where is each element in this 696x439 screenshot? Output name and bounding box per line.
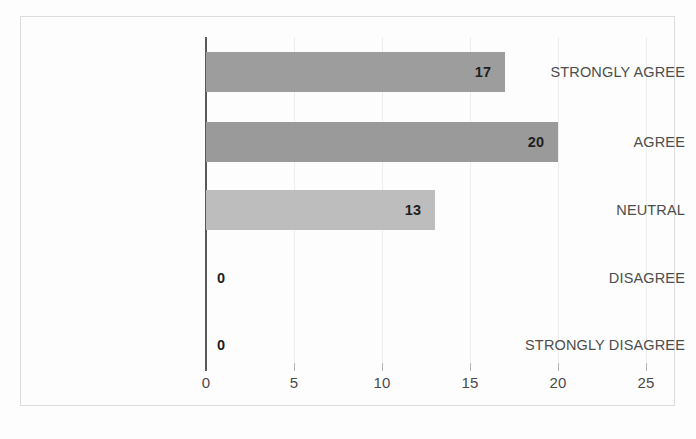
- bar-value-disagree: 0: [217, 270, 225, 286]
- tick-label-5: 5: [264, 374, 324, 391]
- tick-mark-15: [470, 363, 471, 371]
- category-label-strongly-disagree: STRONGLY DISAGREE: [500, 337, 696, 353]
- category-label-neutral: NEUTRAL: [500, 202, 696, 218]
- tick-mark-25: [646, 363, 647, 371]
- gridline-20: [558, 37, 559, 362]
- tick-label-10: 10: [352, 374, 412, 391]
- tick-label-15: 15: [440, 374, 500, 391]
- bar-value-neutral: 13: [405, 202, 421, 218]
- bar-neutral: 13: [206, 190, 435, 230]
- tick-mark-5: [294, 363, 295, 371]
- category-label-strongly-agree: STRONGLY AGREE: [500, 64, 696, 80]
- tick-mark-20: [558, 363, 559, 371]
- tick-label-20: 20: [528, 374, 588, 391]
- tick-mark-0: [205, 363, 207, 371]
- tick-label-25: 25: [616, 374, 676, 391]
- bar-value-strongly-agree: 17: [475, 64, 491, 80]
- tick-label-0: 0: [176, 374, 236, 391]
- gridline-25: [646, 37, 647, 362]
- tick-mark-10: [382, 363, 383, 371]
- category-label-agree: AGREE: [500, 134, 696, 150]
- category-label-disagree: DISAGREE: [500, 270, 696, 286]
- bar-value-strongly-disagree: 0: [217, 337, 225, 353]
- bar-chart-figure: 17 20 13 0 0 STRONGLY AGREE AGREE NEUTRA…: [0, 0, 696, 439]
- bar-strongly-agree: 17: [206, 52, 505, 92]
